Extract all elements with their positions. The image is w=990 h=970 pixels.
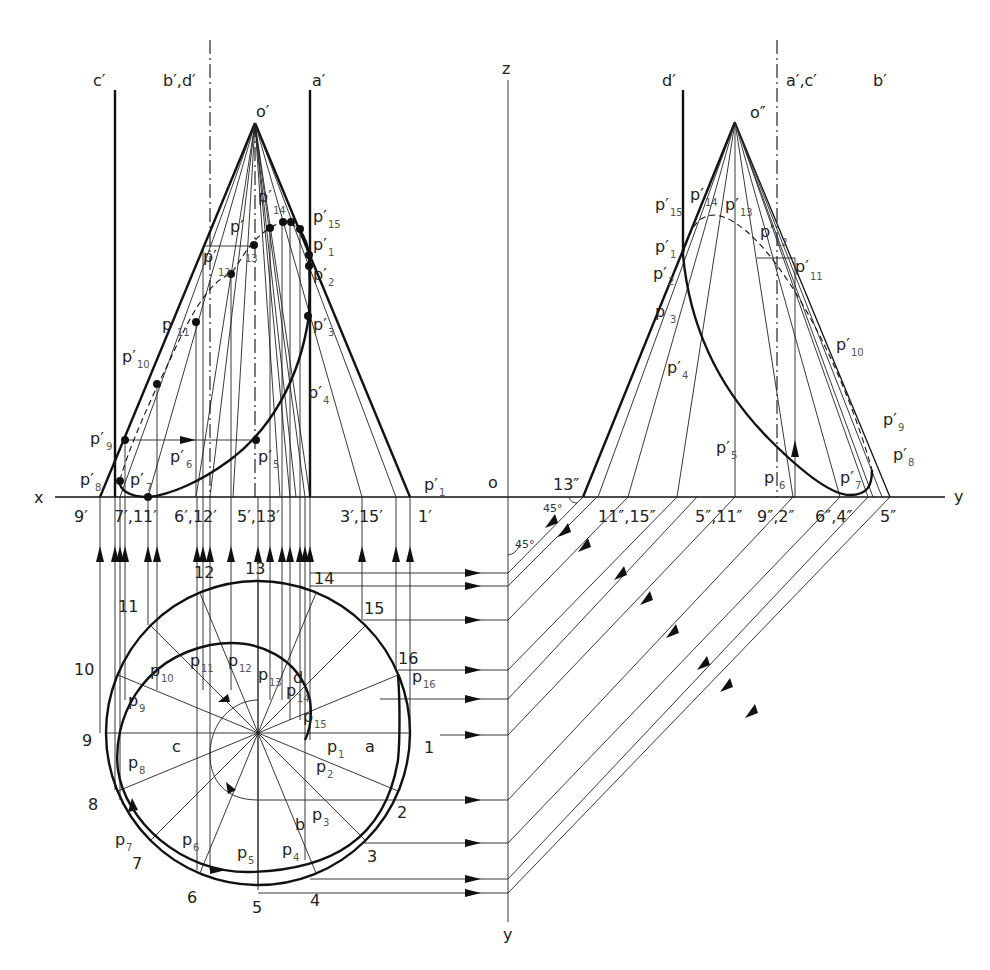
svg-text:5″,11″: 5″,11″ <box>695 507 743 526</box>
svg-text:1′: 1′ <box>418 507 432 526</box>
reference-axes: x y z o y 45° 45° <box>34 59 963 944</box>
svg-text:7: 7 <box>126 842 132 853</box>
svg-text:p′: p′ <box>122 347 136 366</box>
front-view: c′ b′,d′ a′ o′ p′1 p′2 p′3 p′4 p′5 p′6 p… <box>74 40 445 526</box>
quadrant-labels: a b c d <box>172 668 375 834</box>
transfer-lines-45deg <box>508 497 890 893</box>
svg-text:11: 11 <box>201 663 214 674</box>
svg-text:p: p <box>764 468 774 487</box>
svg-text:p: p <box>128 753 138 772</box>
svg-text:p: p <box>237 843 247 862</box>
svg-text:4: 4 <box>293 852 299 863</box>
svg-text:p: p <box>150 661 160 680</box>
svg-text:p′: p′ <box>308 383 322 402</box>
svg-text:15: 15 <box>670 207 683 218</box>
svg-text:p′: p′ <box>667 358 681 377</box>
svg-text:p′: p′ <box>162 315 176 334</box>
svg-text:8: 8 <box>908 457 914 468</box>
svg-text:p′: p′ <box>313 315 327 334</box>
svg-text:p: p <box>316 757 326 776</box>
svg-text:p: p <box>327 737 337 756</box>
svg-text:p: p <box>282 840 292 859</box>
svg-text:14: 14 <box>314 569 334 588</box>
svg-text:p: p <box>228 651 238 670</box>
svg-text:11: 11 <box>810 271 823 282</box>
svg-text:p: p <box>128 691 138 710</box>
svg-text:9: 9 <box>898 422 904 433</box>
svg-text:8: 8 <box>88 795 98 814</box>
svg-text:p: p <box>655 302 665 321</box>
svg-text:10: 10 <box>161 673 174 684</box>
svg-text:p′: p′ <box>424 475 438 494</box>
svg-text:11″,15″: 11″,15″ <box>598 507 656 526</box>
svg-text:p: p <box>190 651 200 670</box>
svg-text:p′: p′ <box>795 257 809 276</box>
z-axis-label: z <box>502 59 510 78</box>
svg-text:p: p <box>412 667 422 686</box>
svg-text:1: 1 <box>338 749 344 760</box>
svg-text:p′: p′ <box>258 187 272 206</box>
svg-text:12: 12 <box>775 237 788 248</box>
svg-text:p′: p′ <box>655 237 669 256</box>
label-bd-prime: b′,d′ <box>163 71 196 90</box>
svg-text:5′,13′: 5′,13′ <box>237 507 280 526</box>
origin-label: o <box>488 473 498 492</box>
side-generators <box>598 122 882 497</box>
svg-text:p′: p′ <box>203 247 217 266</box>
svg-text:p′: p′ <box>725 195 739 214</box>
svg-text:12: 12 <box>218 267 231 278</box>
side-view: d′ a′,c′ b′ o″ p′15 p′14 p′13 p′12 p′1 p… <box>553 40 914 526</box>
svg-text:16: 16 <box>398 649 418 668</box>
svg-text:p′: p′ <box>90 429 104 448</box>
svg-text:2: 2 <box>668 276 674 287</box>
svg-text:4: 4 <box>682 370 688 381</box>
svg-text:9′: 9′ <box>74 507 88 526</box>
helix-on-cone-projection-drawing: x y z o y 45° 45° <box>0 0 990 970</box>
horizontal-arrows <box>465 569 481 897</box>
svg-text:p′: p′ <box>690 185 704 204</box>
svg-text:6: 6 <box>193 842 199 853</box>
svg-text:7′,11′: 7′,11′ <box>114 507 157 526</box>
svg-text:p′: p′ <box>170 447 184 466</box>
svg-text:9: 9 <box>139 703 145 714</box>
svg-text:p: p <box>258 665 268 684</box>
svg-text:p′: p′ <box>313 265 327 284</box>
svg-text:6: 6 <box>186 459 192 470</box>
svg-text:p′: p′ <box>716 438 730 457</box>
svg-text:p′: p′ <box>130 470 144 489</box>
svg-text:14: 14 <box>705 197 718 208</box>
svg-text:9″,2″: 9″,2″ <box>757 507 794 526</box>
svg-text:p′: p′ <box>655 195 669 214</box>
front-base-labels: 9′ 7′,11′ 6′,12′ 5′,13′ 3′,15′ 1′ <box>74 507 432 526</box>
svg-text:7: 7 <box>146 482 152 493</box>
svg-text:15: 15 <box>328 219 341 230</box>
svg-text:10: 10 <box>851 347 864 358</box>
svg-text:6: 6 <box>187 888 197 907</box>
svg-text:3: 3 <box>328 327 334 338</box>
svg-text:8: 8 <box>95 482 101 493</box>
svg-text:2: 2 <box>397 803 407 822</box>
svg-text:p′: p′ <box>653 264 667 283</box>
svg-text:10: 10 <box>137 359 150 370</box>
svg-text:15: 15 <box>314 719 327 730</box>
label-ac-prime: a′,c′ <box>786 71 817 90</box>
svg-text:16: 16 <box>423 679 436 690</box>
label-b-prime: b′ <box>873 71 887 90</box>
svg-text:d: d <box>293 668 303 687</box>
svg-text:9: 9 <box>106 441 112 452</box>
y-axis-label-bottom: y <box>503 925 512 944</box>
svg-text:p′: p′ <box>313 207 327 226</box>
label-d-prime: d′ <box>662 71 676 90</box>
svg-text:4: 4 <box>310 891 320 910</box>
apex-label-front: o′ <box>256 102 270 121</box>
svg-text:2: 2 <box>328 277 334 288</box>
svg-text:1: 1 <box>439 487 445 498</box>
svg-text:5: 5 <box>273 459 279 470</box>
svg-text:5: 5 <box>731 450 737 461</box>
svg-text:11: 11 <box>177 327 190 338</box>
svg-text:13: 13 <box>245 253 258 264</box>
svg-text:9: 9 <box>82 731 92 750</box>
svg-text:p: p <box>303 707 313 726</box>
svg-text:p′: p′ <box>230 217 244 236</box>
svg-text:13″: 13″ <box>553 475 579 494</box>
